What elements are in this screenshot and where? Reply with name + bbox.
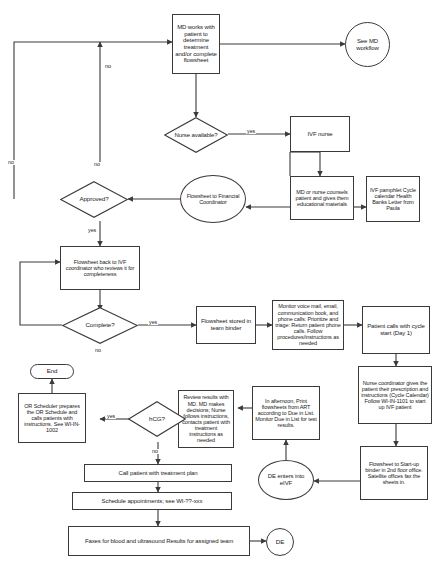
node-label: Nurse available? (164, 132, 228, 139)
node-label: Monitor voice mail, email, communication… (275, 303, 341, 346)
node-label: Flowsheet back to IVF coordinator who re… (63, 259, 137, 277)
node-de-enters-into-eivf[interactable]: DE enters into eIVF (258, 460, 314, 500)
edge-label-nurse-no: no (93, 162, 101, 167)
node-complete-decision[interactable]: Complete? (62, 307, 138, 344)
node-or-scheduler-prepares-schedule[interactable]: OR Scheduler prepares the OR Schedule an… (18, 393, 86, 443)
node-label: Flowsheet to Start-up binder in 2nd floo… (363, 461, 425, 486)
node-label: IVF pamphlet Cycle calendar Health Banks… (369, 187, 417, 212)
node-in-afternoon-print-flowsheets[interactable]: In afternoon, Print flowsheets from ART … (252, 386, 320, 440)
node-hcg-decision[interactable]: hCG? (128, 401, 186, 437)
node-label: Schedule appointments; see WI-??-xxx (102, 498, 203, 505)
node-label: DE (276, 539, 284, 546)
node-de[interactable]: DE (266, 528, 294, 556)
node-label: In afternoon, Print flowsheets from ART … (255, 398, 317, 429)
edge-label-approved-no-upper: no (104, 64, 112, 69)
node-patient-calls-cycle-start[interactable]: Patient calls with cycle start (Day 1) (362, 306, 430, 354)
node-label: OR Scheduler prepares the OR Schedule an… (21, 403, 83, 434)
node-label: Complete? (62, 322, 138, 329)
node-approved-decision[interactable]: Approved? (60, 181, 128, 218)
edge-label-complete-no: no (94, 348, 102, 353)
node-schedule-appointments[interactable]: Schedule appointments; see WI-??-xxx (72, 492, 232, 510)
node-label: hCG? (128, 416, 186, 423)
node-ivf-nurse[interactable]: IVF nurse (290, 116, 350, 152)
node-nurse-coordinator-prescription[interactable]: Nurse coordinator gives the patient thei… (358, 366, 432, 424)
edge-label-hcg-yes: yes (106, 414, 116, 419)
node-flowsheet-stored-in-team-binder[interactable]: Flowsheet stored in team binder (196, 306, 256, 344)
edge-label-hcg-no: no (151, 449, 159, 454)
node-nurse-available-decision[interactable]: Nurse available? (164, 117, 228, 153)
node-call-patient-with-treatment-plan[interactable]: Call patient with treatment plan (84, 464, 232, 482)
node-label: Faxes for blood and ultrasound Results f… (85, 538, 233, 545)
node-label: IVF nurse (307, 131, 332, 138)
edge-label-approved-yes: yes (87, 228, 97, 233)
node-end[interactable]: End (30, 364, 74, 379)
node-label: Patient calls with cycle start (Day 1) (365, 323, 427, 336)
node-label: Call patient with treatment plan (118, 470, 197, 477)
node-md-or-nurse-counsels[interactable]: MD or nurse counsels patient and gives t… (290, 176, 354, 220)
edge-label-complete-yes: yes (148, 320, 158, 325)
node-label: MD works with patient to determine treat… (175, 24, 217, 64)
node-label: See MD workflow (349, 38, 386, 51)
node-review-results-with-md[interactable]: Review results with MD. MD makes decisio… (178, 390, 234, 448)
edge-label-nurse-yes: yes (246, 129, 256, 134)
node-flowsheet-back-to-ivf-coordinator[interactable]: Flowsheet back to IVF coordinator who re… (60, 246, 140, 290)
node-label: DE enters into eIVF (262, 473, 310, 486)
edge-label-approved-no: no (7, 160, 15, 165)
node-label: Approved? (60, 196, 128, 203)
node-label: End (47, 368, 58, 375)
node-monitor-voicemail-email[interactable]: Monitor voice mail, email, communication… (272, 300, 344, 350)
node-flowsheet-to-financial-coordinator[interactable]: Flowsheet to Financial Coordinator (180, 175, 246, 223)
node-faxes-for-blood-and-ultrasound[interactable]: Faxes for blood and ultrasound Results f… (68, 526, 250, 556)
node-md-works-with-patient[interactable]: MD works with patient to determine treat… (172, 14, 220, 74)
node-label: Nurse coordinator gives the patient thei… (361, 380, 429, 411)
node-see-md-workflow[interactable]: See MD workflow (345, 22, 390, 67)
node-label: Review results with MD. MD makes decisio… (181, 394, 231, 443)
node-ivf-pamphlet-materials[interactable]: IVF pamphlet Cycle calendar Health Banks… (366, 176, 420, 222)
node-label: Flowsheet stored in team binder (199, 318, 253, 331)
flowchart-canvas: MD works with patient to determine treat… (0, 0, 440, 576)
node-flowsheet-to-startup-binder[interactable]: Flowsheet to Start-up binder in 2nd floo… (360, 446, 428, 500)
node-label: Flowsheet to Financial Coordinator (185, 193, 241, 205)
node-label: MD or nurse counsels patient and gives t… (293, 189, 351, 207)
